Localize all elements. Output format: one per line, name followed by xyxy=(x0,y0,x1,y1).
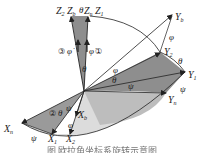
label-z1: Z1 xyxy=(95,5,104,17)
label-psi-left-upper: ψ xyxy=(66,103,72,113)
label-yb: Yb xyxy=(175,11,184,23)
euler-angle-diagram: Z2 Zb θ Zn Z1 ③ φ̇ φ̇ ① θ Yb φ Y2 θ Y1 ψ… xyxy=(0,0,204,153)
sector-z-dark xyxy=(71,16,88,91)
label-theta-right: θ xyxy=(178,56,183,66)
step-3-marker: ③ xyxy=(58,47,65,56)
label-psi-right: ψ xyxy=(180,84,186,94)
step-1-marker: ① xyxy=(95,47,102,56)
label-phi-dot-left: φ̇ xyxy=(67,46,75,56)
label-y1: Y1 xyxy=(188,69,197,81)
label-z2: Z2 xyxy=(56,5,65,17)
sector-y2-y1-dark xyxy=(84,52,185,93)
label-psi-bottom: ψ xyxy=(31,133,37,143)
label-yn: Yn xyxy=(168,94,177,106)
label-phi-center: φ xyxy=(113,65,118,75)
label-psi-center: ψ xyxy=(128,81,134,91)
label-y2: Y2 xyxy=(164,46,173,58)
label-theta-z: θ xyxy=(82,64,87,74)
label-theta-left: θ xyxy=(58,108,63,118)
label-xn: Xn xyxy=(3,123,13,135)
label-zb: Zb xyxy=(67,5,76,17)
label-phi-right: φ xyxy=(169,32,174,42)
label-theta-center: θ xyxy=(112,75,117,85)
step-2-marker: ② xyxy=(49,109,56,118)
label-zn: Zn xyxy=(84,5,93,17)
label-phi-left: φ xyxy=(68,120,73,130)
figure-caption: 图 欧拉角坐标系旋转示意图 xyxy=(0,144,204,153)
